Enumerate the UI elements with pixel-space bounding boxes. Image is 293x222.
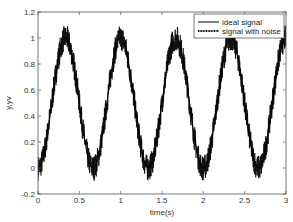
x-tick-label: 2.5 [239, 196, 251, 205]
y-tick-label: -0.2 [21, 190, 35, 199]
y-tick-label: 0.2 [24, 138, 36, 147]
legend: ideal signalsignal with noise [194, 14, 284, 38]
x-tick-label: 2 [201, 196, 206, 205]
y-tick-label: 0.8 [24, 60, 36, 69]
plot-area [38, 26, 286, 181]
x-tick-label: 0.5 [74, 196, 86, 205]
y-tick-label: 1 [31, 34, 36, 43]
y-tick-label: 1.2 [24, 8, 36, 17]
legend-label: signal with noise [222, 27, 281, 36]
x-tick-label: 0 [36, 196, 41, 205]
y-tick-label: 0.6 [24, 86, 36, 95]
x-tick-label: 1.5 [156, 196, 168, 205]
x-axis-label: time(s) [150, 208, 175, 217]
series-ideal-signal [38, 38, 286, 168]
y-tick-label: 0 [31, 164, 36, 173]
chart: 00.511.522.53-0.200.20.40.60.811.2time(s… [0, 0, 293, 222]
y-axis-label: y,yv [4, 96, 13, 110]
x-tick-label: 3 [284, 196, 289, 205]
legend-label: ideal signal [222, 18, 262, 27]
y-tick-label: 0.4 [24, 112, 36, 121]
x-tick-label: 1 [118, 196, 123, 205]
